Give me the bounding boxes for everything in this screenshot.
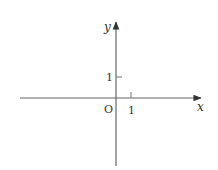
origin-label: O [104,103,113,116]
y-tick-label: 1 [106,71,113,84]
y-axis-label: y [103,20,111,34]
x-tick-label: 1 [128,104,135,117]
x-axis-label: x [197,100,204,114]
coordinate-plane: y x O 1 1 [0,0,218,170]
